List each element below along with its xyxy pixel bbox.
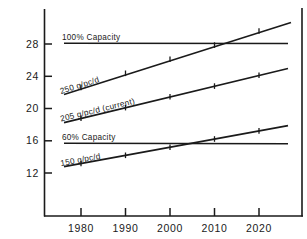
- series-label-100pct-capacity: 100% Capacity: [62, 33, 121, 42]
- y-tick-label-28: 28: [26, 38, 39, 50]
- y-tick-label-16: 16: [26, 134, 39, 146]
- y-tick-label-24: 24: [26, 70, 39, 82]
- x-tick-label-2010: 2010: [202, 222, 228, 234]
- line-chart: 28 24 20 16 12 1980 1990 2000 2010 2020: [0, 0, 307, 239]
- chart-container: 28 24 20 16 12 1980 1990 2000 2010 2020: [0, 0, 307, 239]
- y-tick-label-12: 12: [26, 167, 39, 179]
- x-tick-label-2000: 2000: [157, 222, 183, 234]
- x-tick-label-1990: 1990: [113, 222, 139, 234]
- x-tick-label-2020: 2020: [246, 222, 272, 234]
- x-tick-label-1980: 1980: [68, 222, 94, 234]
- series-60pct-capacity: [64, 143, 288, 144]
- series-line-60pct-capacity: [64, 143, 288, 144]
- series-label-60pct-capacity: 60% Capacity: [62, 133, 116, 142]
- chart-background: [0, 0, 307, 239]
- y-tick-label-20: 20: [26, 102, 39, 114]
